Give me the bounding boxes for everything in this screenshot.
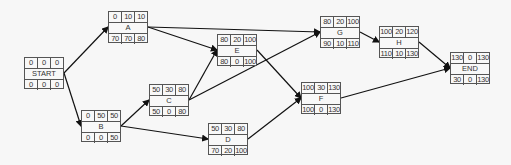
activity-node-start[interactable]: 0 0 0 START 0 0 0 — [24, 57, 64, 89]
late-times-row: 50 0 80 — [150, 107, 188, 117]
activity-label: E — [218, 46, 256, 56]
latest-finish: 110 — [346, 39, 359, 49]
edge-d-f — [248, 98, 301, 139]
edge-b-c — [121, 100, 149, 126]
late-times-row: 110 10 130 — [380, 49, 418, 59]
activity-label: A — [109, 23, 147, 33]
activity-node-b[interactable]: 0 50 50 B 0 0 50 — [81, 110, 121, 142]
early-times-row: 80 20 100 — [321, 17, 359, 27]
activity-label-row: START — [25, 68, 63, 80]
earliest-start: 50 — [209, 124, 221, 134]
edge-a-g — [148, 27, 320, 32]
activity-label-row: B — [82, 121, 120, 133]
activity-node-c[interactable]: 50 30 80 C 50 0 80 — [149, 84, 189, 116]
duration: 30 — [314, 83, 327, 93]
early-times-row: 50 30 80 — [150, 85, 188, 95]
duration: 20 — [392, 27, 405, 37]
duration: 20 — [333, 17, 346, 27]
late-times-row: 30 0 130 — [451, 75, 489, 85]
duration: 30 — [221, 124, 234, 134]
activity-node-e[interactable]: 80 20 100 E 80 0 100 — [217, 34, 257, 66]
early-times-row: 100 20 120 — [380, 27, 418, 37]
edge-start-b — [64, 73, 81, 126]
activity-label: H — [380, 38, 418, 48]
activity-label-row: G — [321, 27, 359, 39]
duration: 10 — [121, 12, 134, 22]
total-float: 0 — [94, 133, 107, 143]
late-times-row: 0 0 0 — [25, 80, 63, 90]
duration: 20 — [230, 35, 243, 45]
edge-e-f — [257, 50, 301, 98]
duration: 50 — [94, 111, 107, 121]
early-times-row: 130 0 130 — [451, 53, 489, 63]
activity-node-d[interactable]: 50 30 80 D 70 20 100 — [208, 123, 248, 155]
activity-label: F — [302, 94, 340, 104]
earliest-finish: 130 — [476, 53, 489, 63]
earliest-start: 130 — [451, 53, 463, 63]
total-float: 0 — [230, 57, 243, 67]
earliest-finish: 50 — [107, 111, 120, 121]
total-float: 10 — [392, 49, 405, 59]
activity-label: G — [321, 28, 359, 38]
latest-start: 70 — [209, 146, 221, 156]
duration: 30 — [162, 85, 175, 95]
early-times-row: 0 0 0 — [25, 58, 63, 68]
activity-label: B — [82, 122, 120, 132]
activity-label: C — [150, 96, 188, 106]
edge-h-end — [419, 42, 450, 68]
earliest-start: 100 — [302, 83, 314, 93]
latest-finish: 0 — [50, 80, 63, 90]
activity-node-h[interactable]: 100 20 120 H 110 10 130 — [379, 26, 419, 58]
latest-finish: 80 — [175, 107, 188, 117]
earliest-start: 0 — [82, 111, 94, 121]
total-float: 70 — [121, 34, 134, 44]
activity-node-f[interactable]: 100 30 130 F 100 0 130 — [301, 82, 341, 114]
late-times-row: 80 0 100 — [218, 57, 256, 67]
latest-finish: 100 — [234, 146, 247, 156]
late-times-row: 70 70 80 — [109, 34, 147, 44]
earliest-start: 80 — [218, 35, 230, 45]
earliest-finish: 10 — [134, 12, 147, 22]
earliest-start: 80 — [321, 17, 333, 27]
late-times-row: 0 0 50 — [82, 133, 120, 143]
earliest-finish: 130 — [327, 83, 340, 93]
late-times-row: 70 20 100 — [209, 146, 247, 156]
earliest-finish: 100 — [243, 35, 256, 45]
latest-start: 110 — [380, 49, 392, 59]
activity-label-row: D — [209, 134, 247, 146]
activity-node-end[interactable]: 130 0 130 END 30 0 130 — [450, 52, 490, 84]
earliest-start: 0 — [25, 58, 37, 68]
earliest-finish: 0 — [50, 58, 63, 68]
activity-label-row: E — [218, 45, 256, 57]
early-times-row: 80 20 100 — [218, 35, 256, 45]
edge-g-h — [360, 32, 379, 42]
total-float: 0 — [463, 75, 476, 85]
latest-start: 30 — [451, 75, 463, 85]
edge-b-d — [121, 126, 208, 139]
latest-finish: 130 — [405, 49, 418, 59]
activity-label-row: F — [302, 93, 340, 105]
edge-start-a — [64, 27, 108, 73]
edge-a-e — [148, 27, 217, 50]
activity-node-g[interactable]: 80 20 100 G 90 10 110 — [320, 16, 360, 48]
earliest-start: 0 — [109, 12, 121, 22]
activity-label-row: C — [150, 95, 188, 107]
earliest-finish: 80 — [175, 85, 188, 95]
latest-start: 80 — [218, 57, 230, 67]
activity-label-row: A — [109, 22, 147, 34]
latest-start: 90 — [321, 39, 333, 49]
activity-node-a[interactable]: 0 10 10 A 70 70 80 — [108, 11, 148, 43]
early-times-row: 0 50 50 — [82, 111, 120, 121]
latest-start: 0 — [25, 80, 37, 90]
activity-label-row: H — [380, 37, 418, 49]
activity-label-row: END — [451, 63, 489, 75]
total-float: 0 — [314, 105, 327, 115]
activity-label: D — [209, 135, 247, 145]
total-float: 20 — [221, 146, 234, 156]
latest-start: 0 — [82, 133, 94, 143]
earliest-start: 50 — [150, 85, 162, 95]
activity-label: START — [25, 69, 63, 79]
late-times-row: 100 0 130 — [302, 105, 340, 115]
duration: 0 — [37, 58, 50, 68]
activity-label: END — [451, 64, 489, 74]
